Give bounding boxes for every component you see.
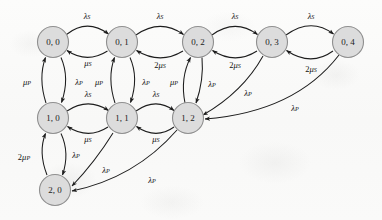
edge-label-1_2-to-2_0: λP (147, 175, 156, 185)
edge-1_1-to-2_0-lambda-p (72, 133, 113, 186)
node-0_3-label: 0, 3 (265, 37, 279, 47)
edge-label-1_1-to-1_2: λS (152, 89, 160, 99)
edge-label-0_0-to-0_1: λS (83, 11, 91, 21)
edge-1_1-to-1_2-lambda-s (136, 104, 174, 111)
edge-0_2-to-0_3-lambda-s (212, 26, 258, 35)
node-1_2[interactable]: 1, 2 (173, 103, 204, 134)
edge-0_2-to-0_1-mu-s (137, 51, 184, 58)
node-0_4[interactable]: 0, 4 (333, 27, 364, 58)
edge-0_2-to-1_2-lambda-p (196, 58, 202, 104)
node-0_3[interactable]: 0, 3 (257, 27, 288, 58)
node-0_2[interactable]: 0, 2 (183, 27, 214, 58)
edge-0_3-to-0_2-mu-s (213, 51, 258, 58)
edge-label-0_1-to-0_2: λS (156, 11, 164, 21)
edge-label-1_1-to-1_0: μS (83, 134, 91, 144)
edge-1_0-to-1_1-lambda-s (67, 104, 109, 111)
node-2_0-label: 2, 0 (48, 185, 62, 195)
edge-0_4-to-0_3-mu-s (287, 51, 334, 59)
edge-label-1_0-to-2_0: λP (71, 150, 80, 160)
edge-label-1_1-to-0_1: μP (94, 77, 103, 87)
edge-label-2_0-to-1_0: 2μP (18, 152, 31, 162)
edge-0_0-to-0_1-lambda-s (67, 26, 109, 34)
edge-label-1_0-to-1_1: λS (84, 89, 92, 99)
node-1_0[interactable]: 1, 0 (38, 103, 69, 134)
edge-label-0_1-to-1_1: λP (141, 77, 150, 87)
edge-label-0_2-to-0_3: λS (231, 11, 239, 21)
edge-label-0_3-to-0_2: 2μS (229, 60, 241, 70)
node-1_0-label: 1, 0 (46, 113, 60, 123)
edge-1_0-to-2_0-lambda-p (61, 134, 66, 176)
edge-2_0-to-1_0-two-mu-p (42, 134, 47, 176)
edge-0_3-to-0_4-lambda-s (286, 26, 334, 35)
edge-label-0_4-to-1_2: λP (290, 103, 299, 113)
edge-0_0-to-1_0-lambda-p (61, 58, 66, 103)
node-0_4-label: 0, 4 (341, 37, 355, 47)
edge-label-0_2-to-1_2: λP (207, 79, 216, 89)
node-0_1[interactable]: 0, 1 (107, 27, 138, 58)
edge-label-0_3-to-1_2: λP (243, 88, 252, 98)
edge-label-0_0-to-1_0: λP (74, 77, 83, 87)
edge-1_1-to-0_1-mu-p (111, 58, 115, 104)
edge-label-1_2-to-0_2: μP (169, 77, 178, 87)
node-1_2-label: 1, 2 (181, 113, 195, 123)
edge-label-0_3-to-0_4: λS (307, 11, 315, 21)
edge-0_1-to-0_2-lambda-s (136, 26, 184, 35)
edge-0_4-to-1_2-lambda-p (205, 55, 339, 119)
node-0_2-label: 0, 2 (191, 37, 205, 47)
node-0_0-label: 0, 0 (46, 37, 60, 47)
diagram-canvas: 0, 0 0, 1 0, 2 0, 3 0, 4 1, 0 (0, 0, 382, 220)
edge-0_1-to-1_1-lambda-p (130, 58, 135, 103)
node-0_1-label: 0, 1 (115, 37, 129, 47)
edge-label-0_1-to-0_0: μS (83, 58, 91, 68)
node-2_0[interactable]: 2, 0 (40, 175, 71, 206)
edge-label-0_4-to-0_3: 2μS (305, 64, 317, 74)
node-0_0[interactable]: 0, 0 (38, 27, 69, 58)
edge-label-1_2-to-1_1: μS (151, 134, 159, 144)
edge-0_1-to-0_0-mu-s (67, 51, 108, 58)
nodes-layer: 0, 0 0, 1 0, 2 0, 3 0, 4 1, 0 (38, 27, 364, 206)
edge-1_2-to-1_1-mu-s (137, 127, 175, 134)
edge-1_2-to-0_2-mu-p (183, 58, 190, 104)
edge-1_0-to-0_0-mu-p (42, 58, 46, 104)
node-1_1-label: 1, 1 (115, 113, 129, 123)
edge-1_1-to-1_0-mu-s (68, 127, 109, 134)
edge-label-1_0-to-0_0: μP (22, 77, 31, 87)
edge-label-1_1-to-2_0: λP (101, 165, 110, 175)
edge-label-0_2-to-0_1: 2μS (154, 60, 166, 70)
node-1_1[interactable]: 1, 1 (107, 103, 138, 134)
state-transition-graph: 0, 0 0, 1 0, 2 0, 3 0, 4 1, 0 (0, 0, 382, 220)
